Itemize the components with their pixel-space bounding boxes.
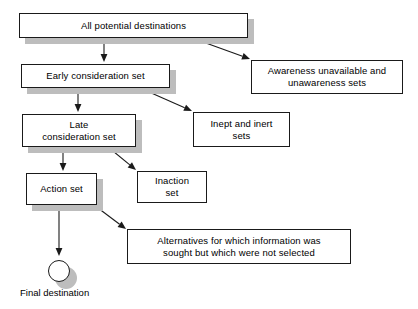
node-label: Action set (37, 183, 86, 195)
flowchart-canvas: All potential destinationsEarly consider… (0, 0, 418, 309)
node-all-potential-destinations: All potential destinations (19, 13, 248, 38)
node-awareness-unavailable-and-unawareness-sets: Awareness unavailable and unawareness se… (251, 60, 403, 94)
node-label: Inaction set (152, 175, 192, 199)
final-destination-caption: Final destination (20, 287, 89, 299)
node-late-consideration-set: Late consideration set (22, 114, 136, 147)
node-label: Inept and inert sets (207, 118, 275, 142)
node-inaction-set: Inaction set (137, 171, 207, 203)
final-destination-circle (48, 260, 70, 282)
node-inept-and-inert-sets: Inept and inert sets (193, 112, 290, 147)
node-label: Late consideration set (39, 119, 119, 143)
node-label: Awareness unavailable and unawareness se… (265, 65, 390, 89)
node-label: Alternatives for which information was s… (154, 235, 323, 259)
node-early-consideration-set: Early consideration set (21, 64, 170, 88)
node-alternatives-not-selected: Alternatives for which information was s… (127, 229, 351, 264)
edge-action-to-final (56, 205, 63, 256)
node-label: Early consideration set (43, 70, 147, 82)
node-label: All potential destinations (78, 20, 189, 32)
node-action-set: Action set (26, 173, 97, 205)
